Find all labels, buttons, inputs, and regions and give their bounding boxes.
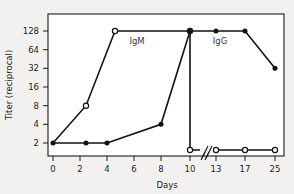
x-tick-label: 13 [211,164,222,174]
x-tick-label: 25 [270,164,281,174]
x-tick-label: 4 [104,164,109,174]
x-tick-label: 2 [77,164,82,174]
y-tick-label: 16 [28,82,39,92]
x-tick-label: 17 [240,164,251,174]
y-tick-label: 64 [28,45,39,55]
y-tick-label: 128 [23,26,39,36]
y-tick-label: 2 [34,138,39,148]
series-label-igg: IgG [213,36,228,46]
y-tick-label: 32 [28,63,39,73]
x-axis-title: Days [156,180,178,190]
y-tick-label: 4 [34,119,39,129]
chart-container: 128 64 32 16 8 4 2 Titer (reciprocal) 0 … [0,0,294,194]
series-label-igm: IgM [129,36,144,46]
y-axis-title: Titer (reciprocal) [4,50,14,121]
x-tick-label: 8 [158,164,163,174]
y-tick-label: 8 [34,101,39,111]
x-tick-label: 10 [185,164,196,174]
x-tick-label: 0 [50,164,55,174]
antibody-titer-chart: 128 64 32 16 8 4 2 Titer (reciprocal) 0 … [0,0,294,194]
x-tick-label: 6 [131,164,136,174]
